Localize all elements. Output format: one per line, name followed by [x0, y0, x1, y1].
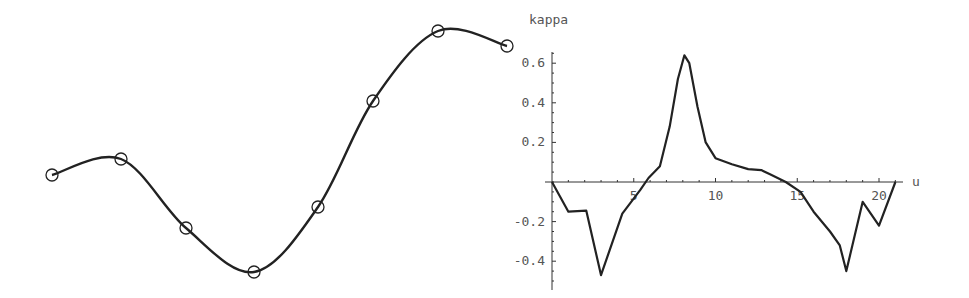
- spline-curve: [52, 29, 507, 273]
- y-axis-label: kappa: [529, 12, 568, 27]
- figure: 5101520 -0.4-0.20.20.40.6 kappa u: [0, 0, 969, 298]
- x-axis-label: u: [912, 174, 920, 189]
- x-tick-label: 10: [708, 188, 724, 203]
- y-ticks: -0.4-0.20.20.40.6: [514, 53, 556, 281]
- spline-plot: [46, 25, 513, 278]
- y-tick-label: 0.4: [522, 95, 546, 110]
- data-point-markers: [46, 25, 513, 278]
- kappa-plot: 5101520 -0.4-0.20.20.40.6 kappa u: [514, 12, 920, 290]
- y-tick-label: -0.4: [514, 253, 545, 268]
- y-tick-label: 0.6: [522, 55, 545, 70]
- y-tick-label: -0.2: [514, 214, 545, 229]
- y-tick-label: 0.2: [522, 134, 545, 149]
- x-tick-label: 20: [871, 188, 887, 203]
- kappa-curve: [552, 55, 895, 275]
- x-ticks: 5101520: [568, 178, 895, 203]
